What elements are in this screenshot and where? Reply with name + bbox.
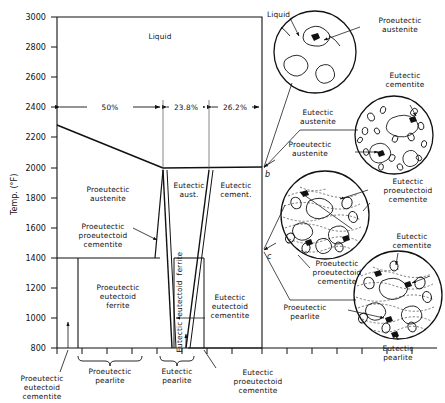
region-label-ppc-line2: proeutectoid [65,231,141,240]
span-label-50: 50% [87,103,133,112]
bottom-label-epc-line2: proeutectoid [216,377,300,386]
micro4-label-eutectic-pearlite-line2: pearlite [365,353,431,362]
region-label-eutectic-cementite-line1: Eutectic [211,181,261,190]
region-label-proeutectic-austenite-line1: Proeutectic [73,185,143,194]
region-label-pef-line2: eutectoid [80,292,156,301]
span-label-262: 26.2% [218,103,252,112]
micro1-label-liquid: Liquid [267,10,290,19]
bottom-label-eutectic-pearlite-line1: Eutectic [146,367,208,376]
micro2-label-proeutectic-austenite-line1: Proeutectic [270,140,350,149]
micrograph-1-art [274,11,356,93]
region-label-eutectic-austenite-line1: Eutectic [165,181,213,190]
micrograph-3-art [281,171,369,259]
micro4-label-proeutectic-pearlite-line2: pearlite [265,312,345,321]
region-label-ppc-line3: cementite [65,240,141,249]
micro3-label-ppc-line3: cementite [296,277,378,286]
micro3-label-ppc-line1: Proeutectic [296,259,378,268]
bottom-label-epc-line3: cementite [216,386,300,395]
region-label-liquid: Liquid [130,32,190,41]
bottom-label-pec-line3: cementite [2,392,82,401]
micro2-label-eutectic-austenite-line1: Eutectic [280,108,356,117]
micro3-label-ppc-line2: proeutectoid [296,268,378,277]
bottom-label-proeutectic-pearlite-line1: Proeutectic [72,367,148,376]
bottom-label-pec-line2: eutectoid [2,383,82,392]
bottom-label-eutectic-pearlite-line2: pearlite [146,376,208,385]
bottom-label-pec-line1: Proeutectic [2,374,82,383]
phase-diagram-figure: 3000 2800 2600 2400 2200 2000 1800 1600 … [0,0,445,403]
micro1-label-proeutectic-austenite-line2: austenite [362,25,438,34]
bottom-label-epc-line1: Eutectic [216,368,300,377]
micro2-label-eutectic-cementite-line1: Eutectic [367,71,443,80]
micro1-label-proeutectic-austenite-line1: Proeutectic [362,16,438,25]
region-label-pef-line3: ferrite [80,301,156,310]
micro4-label-eutectic-cementite-line1: Eutectic [379,232,445,241]
region-label-eutectic-austenite-line2: aust. [165,190,213,199]
span-label-238: 23.8% [169,103,203,112]
micro4-label-eutectic-pearlite-line1: Eutectic [365,344,431,353]
micro3-label-epc-line3: cementite [372,195,444,204]
region-label-eec-line2: eutectoid [199,302,261,311]
region-label-proeutectic-austenite-line2: austenite [73,194,143,203]
region-label-eec-line3: cementite [199,311,261,320]
bottom-label-proeutectic-pearlite-line2: pearlite [72,376,148,385]
region-label-eutectic-eutectoid-ferrite: Eutectic eutectoid ferrite [175,257,184,353]
micro3-label-epc-line1: Eutectic [372,177,444,186]
micro4-label-proeutectic-pearlite-line1: Proeutectic [265,303,345,312]
micro3-label-epc-line2: proeutectoid [372,186,444,195]
region-label-eutectic-cementite-line2: cement. [211,190,261,199]
micro2-label-eutectic-cementite-line2: cementite [367,80,443,89]
point-marker-b: b [265,170,270,179]
micro2-label-eutectic-austenite-line2: austenite [280,117,356,126]
region-label-eec-line1: Eutectic [199,293,261,302]
region-label-pef-line1: Proeutectic [80,283,156,292]
micrograph-2-art [355,96,433,174]
region-label-ppc-line1: Proeutectic [65,222,141,231]
point-marker-c: c [267,252,272,261]
micro2-label-proeutectic-austenite-line2: austenite [270,149,350,158]
micro4-label-eutectic-cementite-line2: cementite [379,241,445,250]
